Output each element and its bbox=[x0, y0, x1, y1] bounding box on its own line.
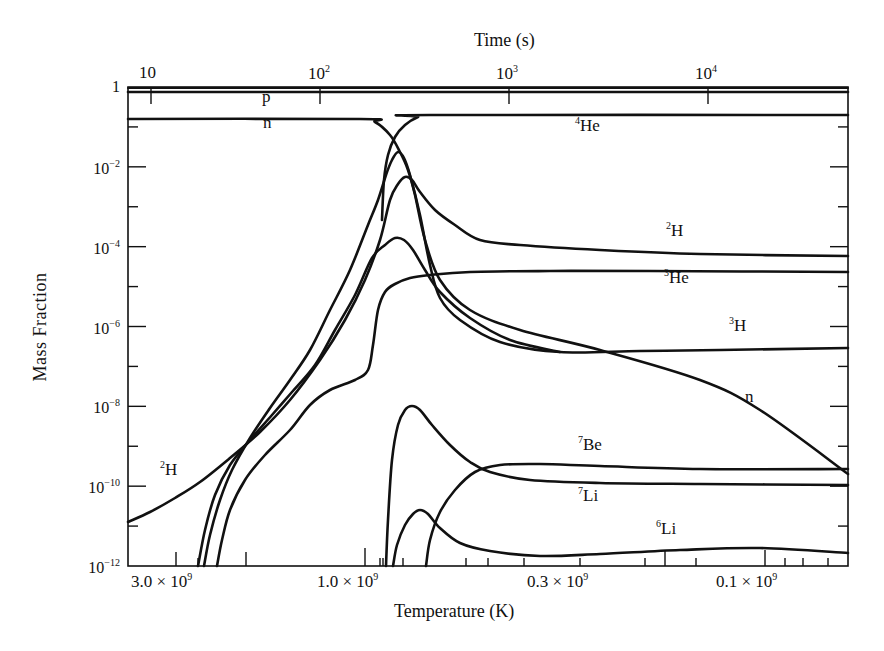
x-axis-title: Temperature (K) bbox=[394, 601, 514, 622]
curve-label: 3H bbox=[729, 316, 746, 334]
curve-label: n bbox=[745, 388, 754, 405]
curve-6li bbox=[393, 510, 848, 566]
curve-n bbox=[128, 119, 848, 474]
curve-label: 2H bbox=[666, 221, 683, 239]
y-tick-label: 10−4 bbox=[40, 239, 120, 257]
y-axis-title: Mass Fraction bbox=[30, 273, 51, 382]
y-tick-label: 10−12 bbox=[40, 558, 120, 576]
curve-3he-early bbox=[198, 238, 560, 566]
x-tick-label: 1.0 × 109 bbox=[317, 572, 378, 590]
y-tick-label: 10−2 bbox=[40, 159, 120, 177]
curve-label: n bbox=[263, 114, 272, 131]
x2-axis-title: Time (s) bbox=[474, 30, 535, 51]
x2-tick-label: 103 bbox=[496, 64, 518, 82]
curve-label: 4He bbox=[575, 116, 600, 134]
x-tick-label: 0.1 × 109 bbox=[716, 572, 777, 590]
y-tick-label: 10−6 bbox=[40, 319, 120, 337]
curve-label: 3He bbox=[664, 268, 689, 286]
curve-3he bbox=[217, 271, 848, 566]
y-tick-label: 10−10 bbox=[40, 478, 120, 496]
x2-tick-label: 102 bbox=[308, 64, 330, 82]
y-tick-label: 1 bbox=[40, 79, 120, 95]
curve-4he bbox=[382, 115, 848, 220]
curve-label: 7Be bbox=[578, 435, 602, 453]
nucleosynthesis-chart bbox=[0, 0, 884, 651]
curve-label: 6Li bbox=[656, 519, 676, 537]
x-tick-label: 3.0 × 109 bbox=[131, 572, 192, 590]
curve-7be bbox=[386, 406, 848, 566]
x2-tick-label: 104 bbox=[695, 64, 717, 82]
curve-label: p bbox=[262, 88, 271, 105]
x2-tick-label: 10 bbox=[139, 64, 156, 81]
x-tick-label: 0.3 × 109 bbox=[527, 572, 588, 590]
curve-label: 2H bbox=[160, 460, 177, 478]
curve-3h bbox=[204, 152, 848, 566]
y-tick-label: 10−8 bbox=[40, 398, 120, 416]
curve-label: 7Li bbox=[578, 486, 598, 504]
